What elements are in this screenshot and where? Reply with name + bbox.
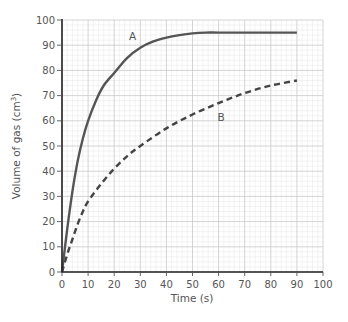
x-tick-label: 10 xyxy=(82,279,95,290)
series-a-label: A xyxy=(129,30,137,42)
y-axis-label: Volume of gas (cm3) xyxy=(10,93,22,199)
x-tick-label: 0 xyxy=(59,279,65,290)
y-tick-label: 90 xyxy=(42,40,55,51)
line-chart: AB 0102030405060708090100 01020304050607… xyxy=(0,0,348,322)
y-tick-label: 70 xyxy=(42,90,55,101)
x-tick-label: 50 xyxy=(186,279,199,290)
x-axis-ticks: 0102030405060708090100 xyxy=(59,272,333,290)
major-grid xyxy=(62,20,323,272)
series-a-line xyxy=(62,33,297,272)
x-tick-label: 80 xyxy=(264,279,277,290)
x-tick-label: 40 xyxy=(160,279,173,290)
x-tick-label: 70 xyxy=(238,279,251,290)
series-b-label: B xyxy=(218,111,225,123)
y-tick-label: 10 xyxy=(42,241,55,252)
y-tick-label: 30 xyxy=(42,191,55,202)
x-tick-label: 20 xyxy=(108,279,121,290)
x-tick-label: 30 xyxy=(134,279,147,290)
y-tick-label: 0 xyxy=(49,267,55,278)
x-tick-label: 60 xyxy=(212,279,225,290)
y-tick-label: 100 xyxy=(36,15,55,26)
x-tick-label: 90 xyxy=(291,279,304,290)
x-tick-label: 100 xyxy=(313,279,332,290)
y-tick-label: 80 xyxy=(42,65,55,76)
y-tick-label: 40 xyxy=(42,166,55,177)
x-axis-label: Time (s) xyxy=(170,292,214,304)
y-tick-label: 20 xyxy=(42,216,55,227)
y-axis-ticks: 0102030405060708090100 xyxy=(36,15,62,278)
y-tick-label: 50 xyxy=(42,141,55,152)
y-tick-label: 60 xyxy=(42,115,55,126)
